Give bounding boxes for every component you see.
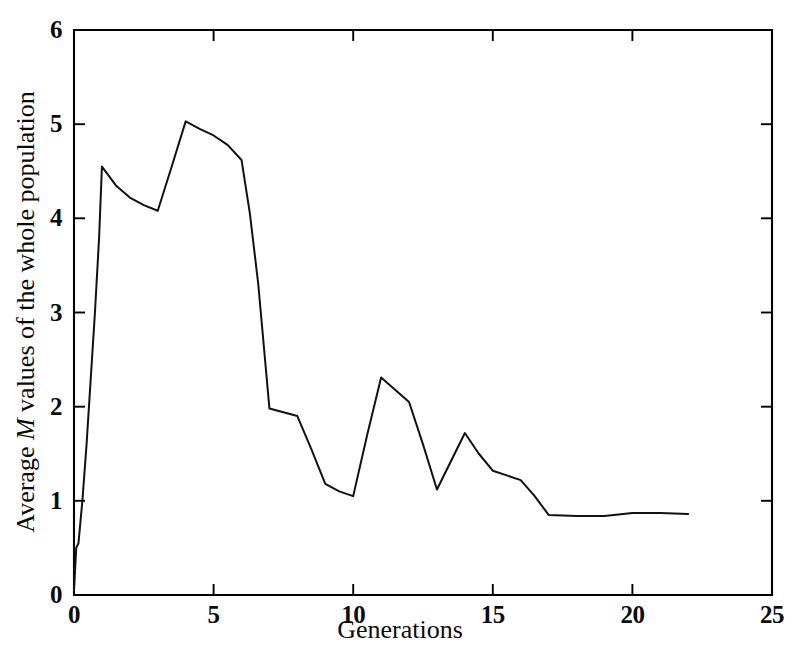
- ytick-label-6: 6: [50, 16, 62, 44]
- y-axis-title: Average M values of the whole population: [11, 91, 41, 532]
- x-tick-marks: [214, 30, 633, 595]
- ytick-label-1: 1: [50, 487, 62, 515]
- y-tick-marks: [74, 30, 772, 595]
- xtick-label-20: 20: [620, 601, 644, 629]
- ytick-label-3: 3: [50, 299, 62, 327]
- y-axis-title-part2: values of the whole population: [11, 91, 40, 418]
- figure-canvas: 0 1 2 3 4 5 6 0 5 10 15 20 25 Generation…: [0, 0, 800, 672]
- ytick-label-2: 2: [50, 393, 62, 421]
- plot-frame: [74, 30, 772, 595]
- ytick-label-0: 0: [50, 581, 62, 609]
- y-axis-title-symbol: M: [11, 418, 40, 440]
- data-series-line: [74, 121, 688, 590]
- xtick-label-5: 5: [208, 601, 220, 629]
- xtick-label-0: 0: [68, 601, 80, 629]
- y-axis-title-part1: Average: [11, 440, 40, 533]
- x-axis-title: Generations: [337, 615, 463, 645]
- xtick-label-25: 25: [760, 601, 784, 629]
- ytick-label-4: 4: [50, 204, 62, 232]
- chart-svg: [0, 0, 800, 672]
- xtick-label-15: 15: [481, 601, 505, 629]
- ytick-label-5: 5: [50, 110, 62, 138]
